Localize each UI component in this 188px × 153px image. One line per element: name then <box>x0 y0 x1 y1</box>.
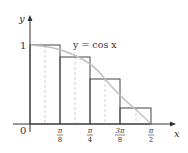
svg-text:2: 2 <box>149 136 153 144</box>
svg-text:π: π <box>57 127 63 135</box>
svg-text:8: 8 <box>118 136 122 144</box>
svg-text:4: 4 <box>88 136 93 144</box>
y-axis-label: y <box>18 13 25 24</box>
svg-text:8: 8 <box>58 136 62 144</box>
x-arrow-icon <box>170 122 176 127</box>
svg-text:3π: 3π <box>115 127 124 135</box>
chart-svg: y x 1 0 y = cos x π 8 π 4 3π 8 π 2 <box>0 0 188 153</box>
x-ticks: π 8 π 4 3π 8 π 2 <box>57 127 154 144</box>
riemann-rectangles <box>30 45 151 124</box>
riemann-sum-chart: y x 1 0 y = cos x π 8 π 4 3π 8 π 2 <box>0 0 188 153</box>
function-label: y = cos x <box>72 39 117 50</box>
svg-text:π: π <box>148 127 154 135</box>
origin-label: 0 <box>20 125 26 136</box>
rect-4 <box>120 108 151 124</box>
axes <box>13 19 172 132</box>
x-axis-label: x <box>174 128 180 139</box>
svg-text:π: π <box>87 127 93 135</box>
y-arrow-icon <box>28 15 33 21</box>
y-tick-1: 1 <box>20 40 26 51</box>
